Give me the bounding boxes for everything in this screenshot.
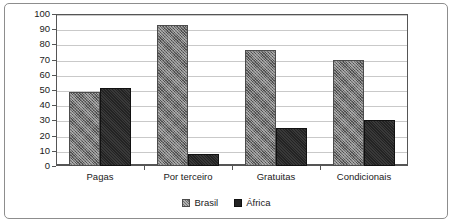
y-tick-label: 90 bbox=[39, 24, 50, 34]
legend-swatch-icon bbox=[234, 199, 242, 207]
y-tick-label: 40 bbox=[39, 100, 50, 110]
y-tick-label: 20 bbox=[39, 131, 50, 141]
y-tick-label: 60 bbox=[39, 70, 50, 80]
x-tick-label: Gratuitas bbox=[257, 172, 296, 182]
x-tick-label: Condicionais bbox=[337, 172, 391, 182]
x-axis: PagasPor terceiroGratuitasCondicionais bbox=[56, 166, 408, 188]
gridline bbox=[57, 76, 407, 77]
legend-item[interactable]: África bbox=[234, 198, 270, 208]
y-tick-label: 50 bbox=[39, 85, 50, 95]
legend-swatch-icon bbox=[182, 199, 190, 207]
legend-label: África bbox=[246, 198, 270, 208]
y-tick-label: 80 bbox=[39, 40, 50, 50]
x-tick-mark bbox=[144, 166, 145, 170]
y-tick-label: 10 bbox=[39, 146, 50, 156]
gridline bbox=[57, 30, 407, 31]
x-tick-mark bbox=[320, 166, 321, 170]
gridline bbox=[57, 15, 407, 16]
y-tick-label: 0 bbox=[45, 161, 50, 171]
x-tick-label: Pagas bbox=[87, 172, 114, 182]
legend-label: Brasil bbox=[194, 198, 218, 208]
x-tick-mark bbox=[232, 166, 233, 170]
gridline bbox=[57, 137, 407, 138]
legend-item[interactable]: Brasil bbox=[182, 198, 218, 208]
gridline bbox=[57, 91, 407, 92]
y-tick-label: 70 bbox=[39, 55, 50, 65]
x-tick-label: Por terceiro bbox=[163, 172, 212, 182]
y-tick-label: 30 bbox=[39, 116, 50, 126]
chart-figure: 0102030405060708090100 PagasPor terceiro… bbox=[0, 0, 453, 224]
gridline bbox=[57, 45, 407, 46]
gridlines bbox=[57, 15, 407, 165]
gridline bbox=[57, 106, 407, 107]
chart-legend: BrasilÁfrica bbox=[0, 198, 453, 208]
y-axis: 0102030405060708090100 bbox=[20, 14, 56, 166]
gridline bbox=[57, 121, 407, 122]
plot-area bbox=[56, 14, 408, 166]
x-axis-baseline bbox=[57, 164, 407, 165]
gridline bbox=[57, 61, 407, 62]
y-tick-label: 100 bbox=[34, 9, 50, 19]
gridline bbox=[57, 152, 407, 153]
